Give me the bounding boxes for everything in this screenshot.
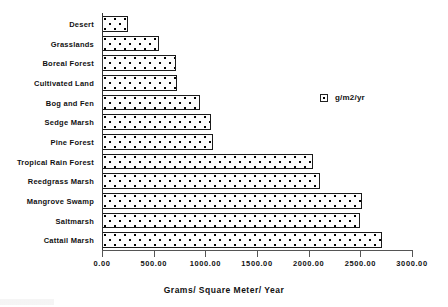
bar-chart-figure: DesertGrasslandsBoreal ForestCultivated … bbox=[0, 0, 448, 307]
x-tick-mark bbox=[309, 251, 310, 257]
y-axis-label-desert: Desert bbox=[69, 19, 94, 28]
y-axis-label-cattail-marsh: Cattail Marsh bbox=[44, 236, 94, 245]
x-tick-label-2500: 2500.00 bbox=[345, 259, 376, 268]
bar-cultivated-land bbox=[102, 75, 177, 91]
bar-saltmarsh bbox=[102, 213, 360, 229]
scan-artifact bbox=[0, 299, 448, 305]
y-axis-label-grasslands: Grasslands bbox=[51, 39, 94, 48]
bar-pine-forest bbox=[102, 134, 213, 150]
bar-desert bbox=[102, 16, 128, 32]
y-axis-label-sedge-marsh: Sedge Marsh bbox=[45, 118, 94, 127]
x-tick-label-3000: 3000.00 bbox=[396, 259, 427, 268]
bar-sedge-marsh bbox=[102, 114, 211, 130]
bar-bog-and-fen bbox=[102, 95, 200, 111]
y-axis-label-bog-and-fen: Bog and Fen bbox=[46, 98, 94, 107]
y-axis-label-mangrove-swamp: Mangrove Swamp bbox=[27, 196, 94, 205]
x-tick-mark bbox=[102, 251, 103, 257]
x-tick-mark bbox=[205, 251, 206, 257]
y-axis-category-labels: DesertGrasslandsBoreal ForestCultivated … bbox=[0, 14, 98, 250]
bar-row bbox=[102, 114, 412, 130]
legend-label: g/m2/yr bbox=[335, 93, 365, 102]
bar-row bbox=[102, 36, 412, 52]
x-tick-label-0: 0.00 bbox=[94, 259, 111, 268]
bar-cattail-marsh bbox=[102, 232, 382, 248]
x-tick-label-2000: 2000.00 bbox=[293, 259, 324, 268]
bar-reedgrass-marsh bbox=[102, 173, 320, 189]
bar-boreal-forest bbox=[102, 55, 176, 71]
y-axis-line bbox=[102, 13, 103, 251]
x-tick-label-1500: 1500.00 bbox=[241, 259, 272, 268]
x-axis-title: Grams/ Square Meter/ Year bbox=[0, 285, 448, 295]
bar-row bbox=[102, 55, 412, 71]
bar-tropical-rain-forest bbox=[102, 154, 313, 170]
bar-mangrove-swamp bbox=[102, 193, 362, 209]
x-tick-mark bbox=[412, 251, 413, 257]
bar-row bbox=[102, 75, 412, 91]
y-axis-label-tropical-rain-forest: Tropical Rain Forest bbox=[17, 157, 94, 166]
y-axis-label-cultivated-land: Cultivated Land bbox=[34, 78, 94, 87]
y-axis-label-pine-forest: Pine Forest bbox=[50, 137, 94, 146]
legend-swatch-icon bbox=[320, 94, 328, 102]
x-tick-label-500: 500.00 bbox=[140, 259, 167, 268]
y-axis-label-reedgrass-marsh: Reedgrass Marsh bbox=[28, 177, 94, 186]
bar-row bbox=[102, 16, 412, 32]
bar-row bbox=[102, 173, 412, 189]
bar-row bbox=[102, 95, 412, 111]
bar-grasslands bbox=[102, 36, 159, 52]
bar-row bbox=[102, 193, 412, 209]
bar-row bbox=[102, 134, 412, 150]
plot-area bbox=[102, 14, 412, 250]
y-axis-label-boreal-forest: Boreal Forest bbox=[42, 59, 94, 68]
bar-row bbox=[102, 213, 412, 229]
y-axis-label-saltmarsh: Saltmarsh bbox=[55, 216, 94, 225]
x-tick-mark bbox=[257, 251, 258, 257]
bar-row bbox=[102, 154, 412, 170]
x-tick-mark bbox=[360, 251, 361, 257]
chart-legend: g/m2/yr bbox=[320, 93, 365, 102]
bar-row bbox=[102, 232, 412, 248]
x-tick-mark bbox=[154, 251, 155, 257]
x-tick-label-1000: 1000.00 bbox=[190, 259, 221, 268]
